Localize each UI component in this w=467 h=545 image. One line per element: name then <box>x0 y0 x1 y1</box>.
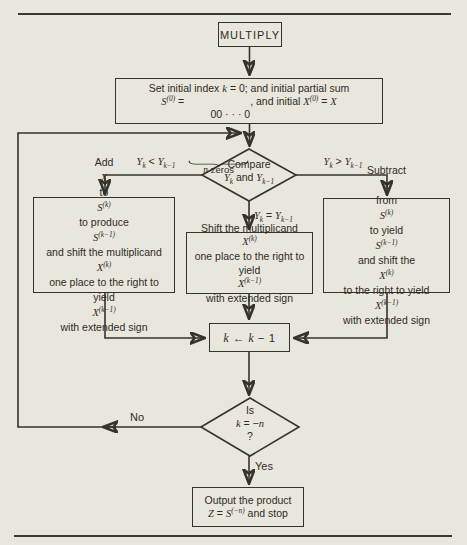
scanned-flowchart-page: MULTIPLY Set initial index k = 0; and in… <box>0 0 467 545</box>
compare-line2: Yk and Yk−1 <box>202 171 296 184</box>
branch-label-less: Yk < Yk−1 <box>118 155 194 168</box>
init-zeros-group: 00 · · · 0 n zeros <box>187 95 250 160</box>
no-label: No <box>130 410 144 424</box>
init-zeros: 00 · · · 0 <box>210 108 250 120</box>
test-line3: ? <box>210 430 290 443</box>
start-node: MULTIPLY <box>218 22 282 47</box>
init-line2: S(0) = 00 · · · 0 n zeros , and initial … <box>161 95 336 160</box>
add-node: Add X to S(k) to produce S(k−1) and shif… <box>33 197 175 293</box>
init-node: Set initial index k = 0; and initial par… <box>115 78 383 124</box>
output-line2: Z = S(−n) and stop <box>208 507 288 520</box>
test-diamond-label: Is k = −n ? <box>210 404 290 443</box>
compare-diamond-label: Compare Yk and Yk−1 <box>202 158 296 184</box>
start-label: MULTIPLY <box>220 29 280 41</box>
init-line2-pre: S(0) = <box>161 95 187 108</box>
test-line1: Is <box>210 404 290 417</box>
output-node: Output the product Z = S(−n) and stop <box>192 487 304 527</box>
shift-node: Shift the multiplicand X(k) one place to… <box>186 232 313 294</box>
init-line1: Set initial index k = 0; and initial par… <box>149 82 350 95</box>
subtract-node: Subtract X from S(k) to yield S(k−1) and… <box>323 198 450 293</box>
edge-branch-less <box>105 175 202 193</box>
init-line2-post: , and initial X(0) = X <box>250 95 337 108</box>
output-line1: Output the product <box>205 494 292 507</box>
test-line2: k = −n <box>210 417 290 431</box>
decrement-label: k ← k − 1 <box>223 332 275 344</box>
decrement-node: k ← k − 1 <box>209 323 290 352</box>
compare-line1: Compare <box>202 158 296 171</box>
yes-label: Yes <box>255 459 273 473</box>
